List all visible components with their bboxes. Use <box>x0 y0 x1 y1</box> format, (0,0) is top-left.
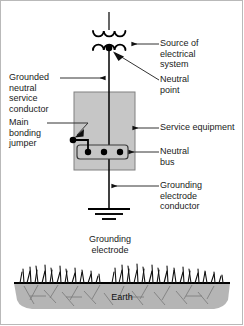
label-earth: Earth <box>92 292 152 303</box>
label-grounding-electrode-conductor: Grounding electrode conductor <box>160 180 202 212</box>
grass-tufts <box>20 264 223 283</box>
label-neutral-point: Neutral point <box>160 74 189 95</box>
label-source-of-electrical-system: Source of electrical system <box>160 38 199 70</box>
label-grounded-neutral-service-conductor: Grounded neutral service conductor <box>9 72 49 114</box>
label-neutral-bus: Neutral bus <box>160 146 189 167</box>
neutral-point-dot <box>106 45 113 52</box>
neutral-bus-terminal-2 <box>101 149 107 155</box>
main-bonding-jumper-enclosure-dot <box>70 137 77 144</box>
label-grounding-electrode: Grounding electrode <box>64 234 156 255</box>
diagram-canvas: Source of electrical system Neutral poin… <box>0 0 244 326</box>
transformer-primary-winding <box>93 31 125 36</box>
label-service-equipment: Service equipment <box>160 122 235 133</box>
leader-neutral-point-arrowhead <box>113 52 124 62</box>
label-main-bonding-jumper: Main bonding jumper <box>9 117 41 149</box>
neutral-bus-terminal-3 <box>117 149 123 155</box>
electrical-system-diagram <box>0 0 244 326</box>
